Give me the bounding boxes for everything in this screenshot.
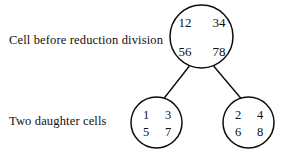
left-daughter-chromosome-top-right: 3 (165, 108, 171, 122)
right-daughter-chromosome-bottom-right: 8 (257, 125, 263, 139)
connector-line-left (164, 67, 190, 100)
left-daughter-cell-outline (131, 97, 182, 148)
parent-chromosome-bottom-right: 78 (213, 44, 226, 59)
right-daughter-chromosome-top-right: 4 (257, 108, 264, 122)
cell-division-figure: Cell before reduction division Two daugh… (0, 0, 281, 156)
right-daughter-chromosome-top-left: 2 (235, 108, 241, 122)
left-daughter-chromosome-bottom-right: 7 (165, 125, 171, 139)
parent-chromosome-top-right: 34 (213, 15, 227, 30)
right-daughter-chromosome-bottom-left: 6 (235, 125, 241, 139)
left-daughter-chromosome-top-left: 1 (143, 108, 149, 122)
connector-line-right (214, 67, 242, 100)
cell-division-diagram: 12 34 56 78 1 3 5 7 2 4 6 8 (0, 0, 281, 156)
left-daughter-chromosome-bottom-left: 5 (143, 125, 149, 139)
parent-chromosome-top-left: 12 (179, 15, 192, 30)
parent-chromosome-bottom-left: 56 (179, 44, 193, 59)
right-daughter-cell-outline (223, 97, 274, 148)
